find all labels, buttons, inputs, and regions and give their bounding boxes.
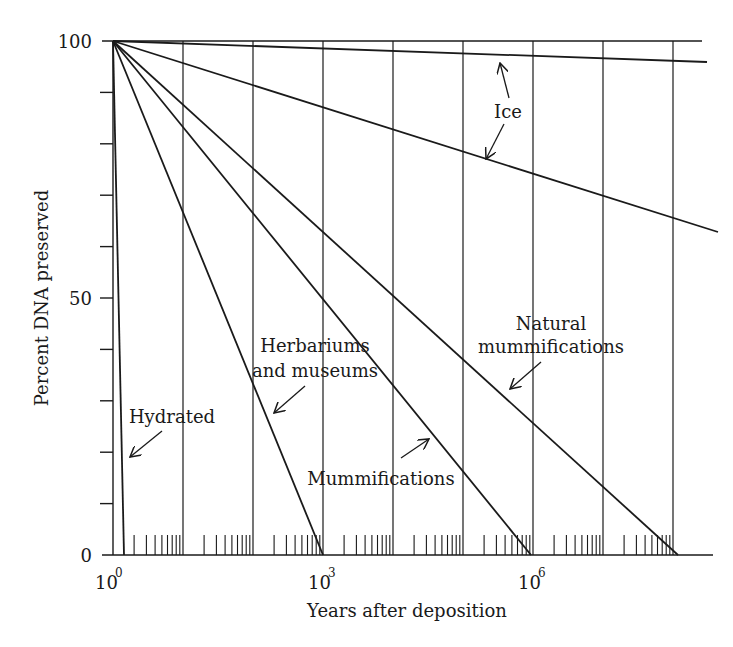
line-herbariums bbox=[113, 41, 323, 555]
annotation-arrows bbox=[130, 63, 541, 458]
label-hydrated: Hydrated bbox=[129, 406, 215, 427]
y-tick-label-50: 50 bbox=[69, 288, 92, 309]
svg-text:6: 6 bbox=[538, 566, 546, 580]
x-tick-label-10e3: 10 3 bbox=[308, 566, 336, 593]
arrow-herbariums bbox=[274, 386, 305, 413]
y-axis-title: Percent DNA preserved bbox=[31, 190, 52, 406]
line-hydrated bbox=[113, 41, 124, 555]
label-herbariums-line1: Herbariums bbox=[260, 335, 369, 356]
arrow-hydrated bbox=[130, 431, 162, 457]
y-tick-label-100: 100 bbox=[58, 31, 92, 52]
x-minor-ticks bbox=[134, 535, 670, 555]
label-herbariums-line2: and museums bbox=[252, 360, 378, 381]
arrow-mummifications bbox=[401, 439, 429, 458]
label-natural-line1: Natural bbox=[516, 313, 587, 334]
arrow-ice-down bbox=[486, 124, 504, 159]
svg-text:3: 3 bbox=[328, 566, 336, 580]
arrow-natural bbox=[510, 362, 541, 389]
label-natural-line2: mummifications bbox=[478, 336, 624, 357]
x-tick-label-10e6: 10 6 bbox=[518, 566, 546, 593]
x-axis-title: Years after deposition bbox=[306, 600, 507, 621]
arrow-ice-up bbox=[500, 63, 509, 98]
y-ticks bbox=[100, 92, 113, 503]
line-ice-lower bbox=[113, 41, 718, 232]
label-mummifications: Mummifications bbox=[307, 468, 454, 489]
svg-text:0: 0 bbox=[115, 566, 123, 580]
dna-preservation-chart: 100 50 0 10 0 10 3 10 6 Years after depo… bbox=[0, 0, 733, 647]
x-tick-label-10e0: 10 0 bbox=[95, 566, 123, 593]
line-ice-upper bbox=[113, 41, 707, 62]
y-tick-label-0: 0 bbox=[81, 545, 92, 566]
label-ice: Ice bbox=[494, 101, 522, 122]
